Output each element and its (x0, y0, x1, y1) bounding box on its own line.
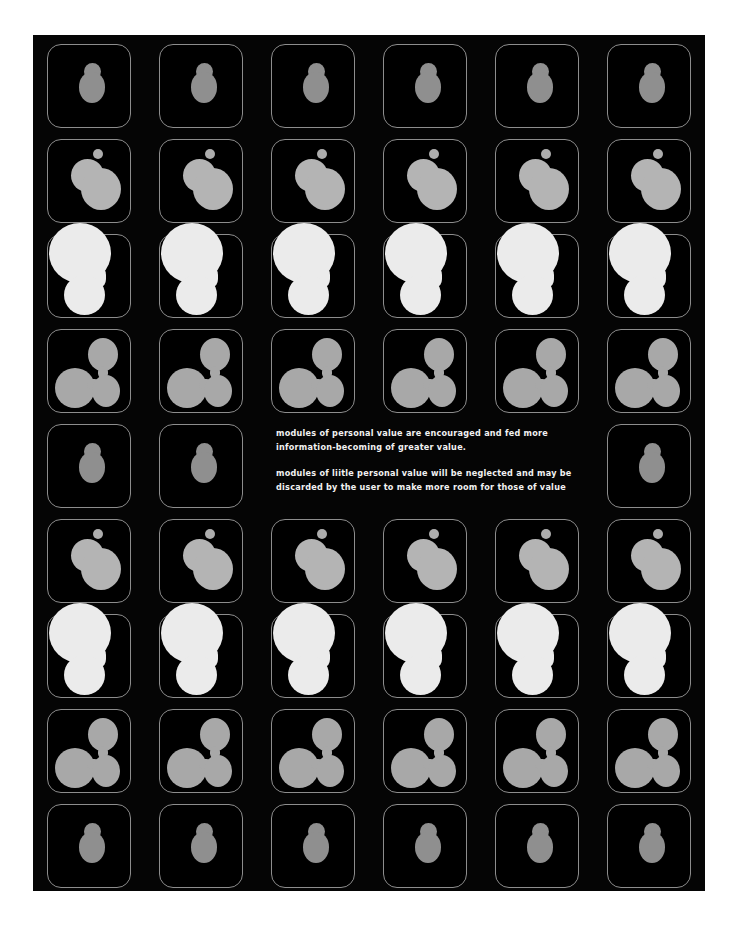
grid-cell (593, 705, 705, 800)
module-tile-dividing-module[interactable] (607, 329, 691, 413)
module-tile-dividing-module[interactable] (159, 329, 243, 413)
module-tile-mature-module[interactable] (607, 234, 691, 318)
module-tile-mature-module[interactable] (495, 234, 579, 318)
module-tile-growing-module[interactable] (607, 139, 691, 223)
mature-module-small (64, 655, 105, 695)
mature-module-icon (608, 615, 692, 699)
module-tile-growing-module[interactable] (383, 519, 467, 603)
seed-module-body (79, 832, 105, 863)
module-tile-dividing-module[interactable] (271, 709, 355, 793)
growing-module-tip (205, 529, 215, 539)
module-tile-dividing-module[interactable] (159, 709, 243, 793)
growing-module-lower (417, 548, 457, 590)
module-tile-mature-module[interactable] (383, 614, 467, 698)
seed-module-icon (384, 45, 468, 129)
dividing-module-br (428, 755, 456, 787)
mature-module-small (64, 275, 105, 315)
grid-cell (33, 135, 145, 230)
grid-cell (33, 515, 145, 610)
page-canvas: modules of personal value are encouraged… (0, 0, 738, 937)
growing-module-tip (541, 149, 551, 159)
grid-cell (257, 705, 369, 800)
mature-module-small (400, 655, 441, 695)
dividing-module-br (204, 755, 232, 787)
growing-module-lower (81, 168, 121, 210)
module-tile-seed-module[interactable] (159, 44, 243, 128)
module-tile-growing-module[interactable] (47, 139, 131, 223)
grid-cell (369, 515, 481, 610)
seed-module-body (639, 832, 665, 863)
module-tile-mature-module[interactable] (495, 614, 579, 698)
seed-module-icon (160, 805, 244, 889)
module-tile-dividing-module[interactable] (383, 709, 467, 793)
module-tile-seed-module[interactable] (383, 44, 467, 128)
grid-cell (145, 515, 257, 610)
seed-module-icon (272, 45, 356, 129)
module-tile-growing-module[interactable] (159, 519, 243, 603)
module-tile-growing-module[interactable] (47, 519, 131, 603)
mature-module-icon (496, 235, 580, 319)
module-tile-seed-module[interactable] (47, 44, 131, 128)
module-tile-dividing-module[interactable] (495, 709, 579, 793)
module-tile-dividing-module[interactable] (607, 709, 691, 793)
grid-cell (257, 40, 369, 135)
mature-module-icon (272, 615, 356, 699)
module-tile-seed-module[interactable] (383, 804, 467, 888)
module-tile-seed-module[interactable] (495, 44, 579, 128)
module-tile-seed-module[interactable] (271, 804, 355, 888)
mature-module-icon (384, 615, 468, 699)
mature-module-small (624, 275, 665, 315)
module-tile-seed-module[interactable] (607, 804, 691, 888)
module-tile-seed-module[interactable] (159, 424, 243, 508)
seed-module-icon (384, 805, 468, 889)
grid-cell (369, 135, 481, 230)
seed-module-icon (160, 45, 244, 129)
dividing-module-br (428, 375, 456, 407)
grid-cell (145, 800, 257, 891)
module-tile-mature-module[interactable] (271, 614, 355, 698)
module-tile-seed-module[interactable] (495, 804, 579, 888)
module-tile-growing-module[interactable] (495, 519, 579, 603)
module-tile-seed-module[interactable] (607, 424, 691, 508)
module-tile-mature-module[interactable] (271, 234, 355, 318)
seed-module-body (191, 832, 217, 863)
module-tile-mature-module[interactable] (47, 234, 131, 318)
module-tile-seed-module[interactable] (47, 424, 131, 508)
growing-module-tip (653, 529, 663, 539)
growing-module-lower (81, 548, 121, 590)
seed-module-icon (608, 805, 692, 889)
module-tile-mature-module[interactable] (159, 234, 243, 318)
mature-module-icon (48, 235, 132, 319)
module-tile-growing-module[interactable] (607, 519, 691, 603)
module-tile-dividing-module[interactable] (47, 329, 131, 413)
grid-cell (369, 610, 481, 705)
module-tile-growing-module[interactable] (495, 139, 579, 223)
grid-cell (593, 420, 705, 515)
module-tile-dividing-module[interactable] (495, 329, 579, 413)
growing-module-tip (93, 529, 103, 539)
module-tile-seed-module[interactable] (607, 44, 691, 128)
module-tile-dividing-module[interactable] (383, 329, 467, 413)
module-tile-growing-module[interactable] (271, 519, 355, 603)
module-tile-dividing-module[interactable] (271, 329, 355, 413)
growing-module-icon (496, 140, 580, 224)
module-tile-seed-module[interactable] (159, 804, 243, 888)
growing-module-lower (193, 548, 233, 590)
mature-module-small (288, 655, 329, 695)
module-tile-growing-module[interactable] (383, 139, 467, 223)
seed-module-icon (272, 805, 356, 889)
module-tile-dividing-module[interactable] (47, 709, 131, 793)
grid-cell (481, 515, 593, 610)
module-tile-mature-module[interactable] (159, 614, 243, 698)
module-tile-growing-module[interactable] (159, 139, 243, 223)
dividing-module-icon (48, 710, 132, 794)
module-tile-growing-module[interactable] (271, 139, 355, 223)
dividing-module-br (652, 755, 680, 787)
seed-module-icon (608, 45, 692, 129)
module-tile-seed-module[interactable] (47, 804, 131, 888)
module-tile-mature-module[interactable] (47, 614, 131, 698)
module-tile-seed-module[interactable] (271, 44, 355, 128)
module-tile-mature-module[interactable] (383, 234, 467, 318)
seed-module-icon (48, 425, 132, 509)
module-tile-mature-module[interactable] (607, 614, 691, 698)
